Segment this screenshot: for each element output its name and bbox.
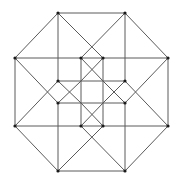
vertex-i5: [101, 124, 104, 127]
vertex-i7: [56, 101, 59, 104]
vertex-i1: [79, 56, 82, 59]
vertex-i6: [79, 124, 82, 127]
edge: [81, 126, 125, 171]
edge: [125, 126, 168, 171]
vertex-i4: [123, 101, 126, 104]
vertex-i8: [56, 79, 59, 82]
vertex-o1: [56, 11, 59, 14]
vertex-o4: [166, 124, 169, 127]
edge: [81, 13, 125, 58]
edge: [15, 13, 58, 58]
graph-svg: [0, 0, 177, 181]
edge: [58, 126, 103, 171]
edges: [15, 13, 168, 171]
vertex-o7: [13, 124, 16, 127]
edge: [15, 126, 58, 171]
edge: [125, 13, 168, 58]
vertex-o8: [13, 56, 16, 59]
edge: [58, 13, 103, 58]
vertex-i3: [123, 79, 126, 82]
tesseract-diagram: [0, 0, 177, 181]
edge: [125, 58, 168, 103]
vertex-o3: [166, 56, 169, 59]
vertex-o2: [123, 11, 126, 14]
vertex-o5: [123, 169, 126, 172]
vertex-o6: [56, 169, 59, 172]
edge: [15, 81, 58, 126]
edge: [15, 58, 58, 103]
edge: [125, 81, 168, 126]
vertex-i2: [101, 56, 104, 59]
